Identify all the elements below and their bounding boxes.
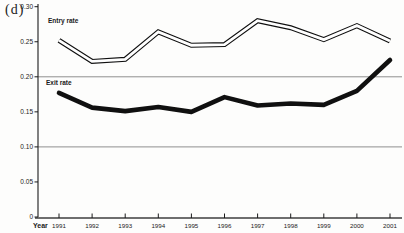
y-tick-label: 0.15 (20, 108, 33, 115)
y-tick-label: 0 (29, 213, 33, 220)
x-tick-label: 1996 (218, 222, 232, 229)
x-tick-label: 1997 (251, 222, 265, 229)
x-tick-label: 1991 (52, 222, 66, 229)
x-tick-label: 1993 (118, 222, 132, 229)
entry-rate-line-core (59, 21, 390, 62)
x-tick-label: 2000 (350, 222, 364, 229)
y-tick-label: 0.30 (20, 3, 33, 10)
x-tick-label: 1994 (151, 222, 165, 229)
y-tick-label: 0.05 (20, 178, 33, 185)
x-tick-label: 1999 (317, 222, 331, 229)
chart-figure: (d) 0.300.250.200.150.100.05019911992199… (0, 0, 404, 233)
series-label-entry-rate: Entry rate (48, 17, 79, 25)
x-tick-label: 1992 (85, 222, 99, 229)
y-tick-label: 0.10 (20, 143, 33, 150)
x-tick-label: 1995 (185, 222, 199, 229)
exit-rate-line (59, 60, 390, 112)
entry-rate-line-outline (59, 21, 390, 62)
x-tick-label: 1998 (284, 222, 298, 229)
series-label-exit-rate: Exit rate (46, 79, 72, 86)
y-tick-label: 0.20 (20, 73, 33, 80)
x-tick-label: 2001 (383, 222, 397, 229)
y-tick-label: 0.25 (20, 38, 33, 45)
x-axis-title: Year (33, 222, 48, 229)
line-chart: 0.300.250.200.150.100.050199119921993199… (0, 0, 404, 233)
